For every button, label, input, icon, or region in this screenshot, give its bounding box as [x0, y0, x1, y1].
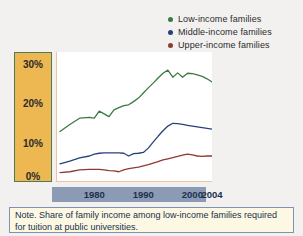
legend-label: Middle-income families [178, 27, 272, 38]
y-axis-tick: 20% [15, 98, 51, 109]
y-axis-tick: 30% [15, 59, 51, 70]
y-axis: 30% 20% 10% 0% [14, 52, 52, 182]
legend-dot-icon [168, 30, 173, 35]
series-line [60, 123, 212, 164]
chart-legend: Low-income families Middle-income famili… [168, 14, 272, 51]
x-axis-tick: 1980 [76, 187, 112, 202]
y-axis-tick: 10% [15, 138, 51, 149]
note-text: Note. Share of family income among low-i… [15, 210, 288, 233]
x-axis-tick: 2004 [194, 187, 230, 202]
data-lines [56, 52, 212, 182]
legend-label: Upper-income families [178, 40, 270, 51]
legend-dot-icon [168, 43, 173, 48]
legend-item-upper-income: Upper-income families [168, 40, 272, 51]
note-box: Note. Share of family income among low-i… [9, 207, 294, 233]
y-axis-tick: 0% [15, 171, 51, 182]
x-axis-tick: 1990 [125, 187, 161, 202]
x-axis: 1980 1990 2000 2004 [52, 187, 206, 202]
chart-figure: Low-income families Middle-income famili… [0, 0, 303, 236]
legend-dot-icon [168, 17, 173, 22]
plot-area [56, 52, 212, 182]
legend-item-middle-income: Middle-income families [168, 27, 272, 38]
legend-label: Low-income families [178, 14, 261, 25]
series-line [60, 70, 212, 131]
legend-item-low-income: Low-income families [168, 14, 272, 25]
